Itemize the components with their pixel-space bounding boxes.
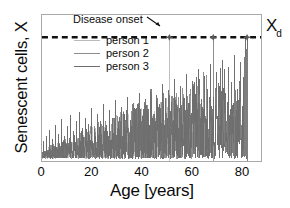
- legend-item-1: person 1: [74, 34, 166, 46]
- disease-onset-annotation: Disease onset: [73, 13, 143, 25]
- legend-label-3: person 3: [106, 61, 149, 72]
- legend: person 1person 2person 3: [74, 34, 166, 73]
- legend-label-2: person 2: [106, 48, 149, 59]
- legend-label-1: person 1: [106, 35, 149, 46]
- x-tick-label-20: 20: [84, 164, 98, 179]
- chart-figure: Senescent cells, X Disease onset person …: [0, 0, 290, 208]
- legend-swatch-2: [74, 53, 100, 54]
- x-axis-label: Age [years]: [41, 181, 263, 201]
- x-tick-label-60: 60: [184, 164, 198, 179]
- onset-marker-2: [210, 34, 217, 41]
- threshold-label: Xd: [266, 16, 283, 37]
- legend-swatch-1: [74, 40, 100, 41]
- legend-swatch-3: [74, 66, 100, 67]
- x-tick-label-80: 80: [235, 164, 249, 179]
- threshold-label-subscript: d: [276, 28, 282, 39]
- x-tick-label-40: 40: [134, 164, 148, 179]
- x-tick-label-0: 0: [37, 164, 44, 179]
- y-axis-label: Senescent cells, X: [12, 13, 31, 163]
- legend-item-3: person 3: [74, 60, 166, 72]
- legend-item-2: person 2: [74, 47, 166, 59]
- onset-marker-1: [166, 34, 173, 41]
